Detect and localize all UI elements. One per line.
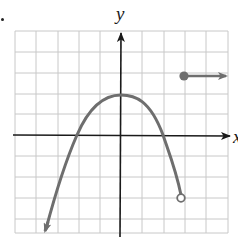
closed-endpoint-dot (179, 71, 188, 80)
y-axis-label: y (116, 4, 124, 23)
parabola-left-arrow (45, 222, 48, 231)
piecewise-function-graph (0, 0, 238, 241)
x-axis-label: x (233, 127, 238, 146)
open-endpoint-circle (177, 194, 185, 202)
parabola-curve (46, 95, 181, 229)
x-axis (13, 135, 230, 136)
y-axis (120, 33, 121, 237)
